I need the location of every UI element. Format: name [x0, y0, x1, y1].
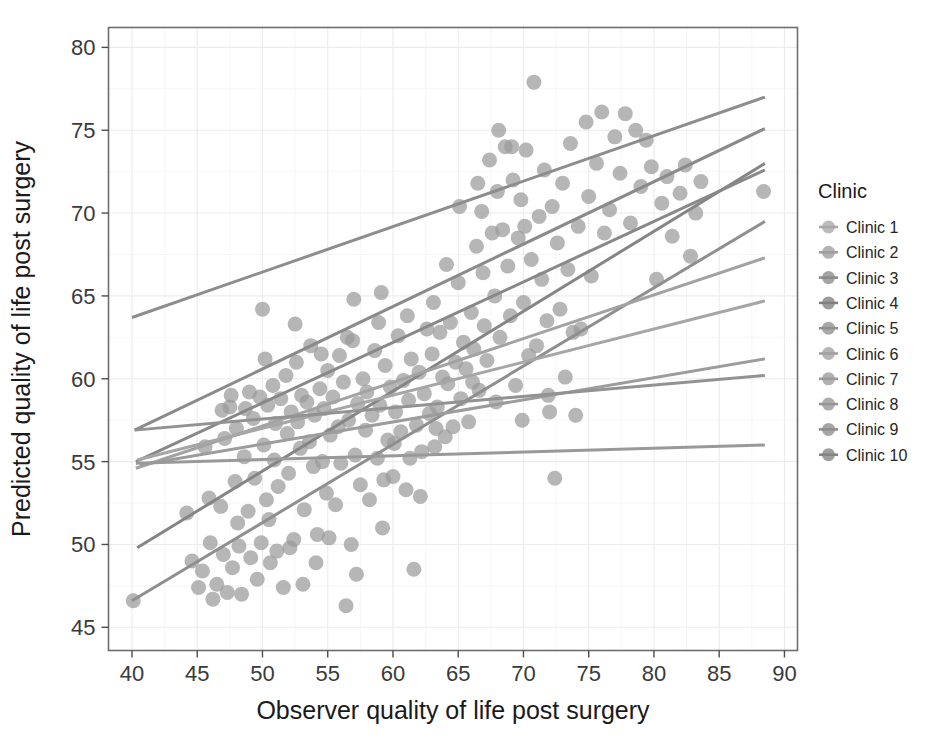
chart-figure: 4045505560657075808590 4550556065707580 …: [0, 0, 933, 752]
x-tick-label: 50: [250, 661, 274, 686]
data-point: [515, 413, 530, 428]
data-point: [269, 544, 284, 559]
data-point: [353, 477, 368, 492]
data-point: [618, 106, 633, 121]
data-point: [265, 378, 280, 393]
legend-item[interactable]: Clinic 5: [819, 319, 899, 338]
data-point: [322, 530, 337, 545]
data-point: [278, 368, 293, 383]
legend-item[interactable]: Clinic 2: [819, 243, 899, 262]
legend-item[interactable]: Clinic 8: [819, 395, 899, 414]
data-point: [550, 235, 565, 250]
legend-item[interactable]: Clinic 6: [819, 345, 899, 364]
legend-entries: Clinic 1Clinic 2Clinic 3Clinic 4Clinic 5…: [819, 218, 907, 465]
legend-item-label: Clinic 10: [846, 447, 907, 464]
data-point: [479, 353, 494, 368]
legend-item-label: Clinic 5: [846, 320, 899, 337]
legend-item[interactable]: Clinic 3: [819, 269, 899, 288]
legend-key-point: [822, 372, 835, 385]
x-tick-label: 65: [446, 661, 470, 686]
data-point: [336, 375, 351, 390]
x-tick-label: 55: [315, 661, 339, 686]
data-point: [289, 355, 304, 370]
data-point: [693, 174, 708, 189]
data-point: [489, 394, 504, 409]
data-point: [242, 385, 257, 400]
data-point: [508, 378, 523, 393]
data-point: [594, 105, 609, 120]
data-point: [195, 563, 210, 578]
legend-item[interactable]: Clinic 10: [819, 446, 907, 465]
data-point: [281, 466, 296, 481]
x-tick-label: 90: [772, 661, 796, 686]
legend-key-point: [822, 423, 835, 436]
legend-key-point: [822, 322, 835, 335]
data-point: [338, 598, 353, 613]
legend-key-point: [822, 347, 835, 360]
legend-item[interactable]: Clinic 7: [819, 370, 899, 389]
legend-item-label: Clinic 1: [846, 219, 899, 236]
y-tick-label: 45: [71, 615, 95, 640]
data-point: [756, 184, 771, 199]
data-point: [581, 189, 596, 204]
data-point: [461, 414, 476, 429]
data-point: [276, 580, 291, 595]
data-point: [295, 577, 310, 592]
data-point: [644, 159, 659, 174]
data-point: [500, 259, 515, 274]
data-point: [349, 567, 364, 582]
data-point: [492, 330, 507, 345]
data-point: [491, 123, 506, 138]
data-point: [542, 404, 557, 419]
data-point: [439, 257, 454, 272]
data-point: [348, 447, 363, 462]
legend-item-label: Clinic 8: [846, 396, 899, 413]
legend-key-point: [822, 448, 835, 461]
data-point: [346, 292, 361, 307]
x-axis-tick-labels: 4045505560657075808590: [120, 661, 797, 686]
legend-key-point: [822, 398, 835, 411]
legend-key-point: [822, 271, 835, 284]
data-point: [374, 285, 389, 300]
data-point: [539, 313, 554, 328]
data-point: [241, 504, 256, 519]
data-point: [362, 492, 377, 507]
data-point: [469, 239, 484, 254]
data-point: [355, 371, 370, 386]
x-axis-title: Observer quality of life post surgery: [256, 696, 650, 724]
y-axis-title: Predicted quality of life post surgery: [7, 140, 35, 537]
data-point: [470, 176, 485, 191]
data-point: [224, 388, 239, 403]
legend-title: Clinic: [818, 180, 867, 202]
data-point: [288, 317, 303, 332]
data-point: [665, 229, 680, 244]
data-point: [673, 186, 688, 201]
scatter-plot-svg: 4045505560657075808590 4550556065707580 …: [0, 0, 933, 752]
y-axis-tick-labels: 4550556065707580: [71, 35, 95, 640]
legend-item[interactable]: Clinic 9: [819, 420, 899, 439]
legend-item[interactable]: Clinic 4: [819, 294, 899, 313]
x-tick-label: 40: [120, 661, 144, 686]
data-point: [579, 114, 594, 129]
data-point: [513, 192, 528, 207]
data-point: [425, 346, 440, 361]
data-point: [378, 358, 393, 373]
legend-key-point: [822, 221, 835, 234]
legend-key-point: [822, 246, 835, 259]
data-point: [230, 515, 245, 530]
legend-key-point: [822, 296, 835, 309]
y-tick-label: 80: [71, 35, 95, 60]
data-point: [504, 139, 519, 154]
data-point: [328, 497, 343, 512]
x-tick-label: 80: [642, 661, 666, 686]
data-point: [558, 370, 573, 385]
data-point: [529, 338, 544, 353]
data-point: [312, 381, 327, 396]
x-tick-label: 70: [511, 661, 535, 686]
data-point: [597, 225, 612, 240]
data-point: [555, 176, 570, 191]
data-point: [225, 560, 240, 575]
legend-item[interactable]: Clinic 1: [819, 218, 899, 237]
x-tick-label: 60: [381, 661, 405, 686]
x-tick-label: 85: [707, 661, 731, 686]
